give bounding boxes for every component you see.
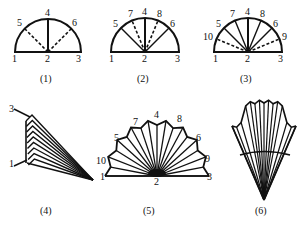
point-label: 4 <box>142 6 147 17</box>
point-label: 8 <box>260 8 265 19</box>
point-label: 3 <box>278 53 283 64</box>
point-label: 2 <box>154 176 159 187</box>
point-label: 6 <box>72 17 77 28</box>
figure-caption: (3) <box>240 73 252 85</box>
point-label: 1 <box>12 53 17 64</box>
pointer-line <box>14 160 27 166</box>
point-label: 6 <box>196 132 201 143</box>
point-label: 1 <box>9 158 14 169</box>
point-label: 8 <box>157 8 162 19</box>
point-label: 8 <box>177 113 182 124</box>
fold-line-solid <box>224 28 248 52</box>
point-label: 10 <box>203 31 213 42</box>
figure-5 <box>105 121 209 177</box>
point-label: 3 <box>175 53 180 64</box>
point-label: 2 <box>142 53 147 64</box>
point-label: 2 <box>245 53 250 64</box>
point-label: 9 <box>282 31 287 42</box>
figure-2: 1 2 3 4 5 6 7 8 (2) <box>109 6 180 85</box>
point-label: 5 <box>216 18 221 29</box>
fold-line-solid <box>145 28 169 52</box>
point-label: 5 <box>113 18 118 29</box>
point-label: 4 <box>45 7 50 18</box>
point-label: 6 <box>273 18 278 29</box>
point-label: 2 <box>45 53 50 64</box>
point-label: 7 <box>133 116 138 127</box>
point-label: 3 <box>9 103 14 114</box>
point-label: 6 <box>170 18 175 29</box>
fold-line-dashed <box>132 21 145 52</box>
point-label: 1 <box>213 53 218 64</box>
figure-1: 1 2 3 4 5 6 (1) <box>12 7 81 85</box>
pointer-line <box>14 109 30 117</box>
figure-caption: (6) <box>255 205 267 217</box>
origami-fan-diagram: 1 2 3 4 5 6 (1) 1 2 3 4 5 6 7 8 (2) 1 2 <box>0 0 306 227</box>
fold-line-dashed <box>25 29 48 52</box>
point-label: 1 <box>100 171 105 182</box>
figure-caption: (4) <box>40 205 52 217</box>
figure-4 <box>14 109 93 180</box>
point-label: 1 <box>109 53 114 64</box>
fold-line-solid <box>248 28 272 52</box>
point-label: 10 <box>96 155 106 166</box>
point-label: 7 <box>230 8 235 19</box>
point-label: 3 <box>76 53 81 64</box>
point-label: 5 <box>114 132 119 143</box>
figure-6 <box>232 100 296 200</box>
fold-line-solid <box>121 28 145 52</box>
point-label: 9 <box>205 153 210 164</box>
point-label: 5 <box>17 17 22 28</box>
figure-caption: (2) <box>137 73 149 85</box>
point-label: 4 <box>154 109 159 120</box>
figure-caption: (5) <box>143 205 155 217</box>
fold-line-dashed <box>145 21 158 52</box>
fold-line-dashed <box>48 29 71 52</box>
figure-caption: (1) <box>40 73 52 85</box>
figure-3: 1 2 3 4 5 6 7 8 9 10 (3) <box>203 6 287 85</box>
point-label: 7 <box>128 8 133 19</box>
point-label: 4 <box>245 6 250 17</box>
point-label: 3 <box>207 171 212 182</box>
